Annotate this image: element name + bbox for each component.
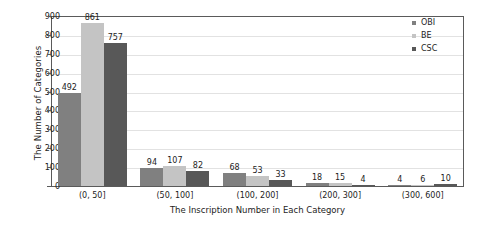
legend-item: BE [412,31,437,41]
bar [329,183,352,186]
x-tick-label: (200, 300] [300,191,380,200]
x-tick-label: (300, 600] [383,191,463,200]
legend-item: OBI [412,18,437,28]
legend-swatch [412,47,416,51]
y-tick-mark [47,186,51,187]
bars-layer: 4928617579410782685333181544610 [51,16,464,186]
bar-value-label: 492 [58,83,81,92]
bar [58,93,81,186]
legend-swatch [412,34,416,38]
bar [306,183,329,186]
bar-value-label: 4 [352,175,375,184]
x-tick-label: (0, 50] [52,191,132,200]
bar-value-label: 10 [434,174,457,183]
bar-value-label: 15 [329,173,352,182]
bar [104,43,127,186]
bar [434,184,457,186]
bar [411,185,434,186]
legend-swatch [412,21,416,25]
x-tick-label: (100, 200] [218,191,298,200]
bar [388,185,411,186]
bar [186,171,209,186]
bar [163,166,186,186]
x-axis-title: The Inscription Number in Each Category [51,205,464,215]
x-tick-label: (50, 100] [135,191,215,200]
bar [81,23,104,186]
bar-value-label: 107 [163,156,186,165]
legend-item: CSC [412,44,437,54]
bar [352,185,375,186]
bar [269,180,292,186]
bar-value-label: 33 [269,170,292,179]
bar-value-label: 4 [388,175,411,184]
bar-value-label: 82 [186,161,209,170]
bar [246,176,269,186]
legend-label: OBI [421,19,435,27]
bar [223,173,246,186]
bar-value-label: 94 [140,158,163,167]
legend: OBIBECSC [412,18,437,54]
legend-label: CSC [421,45,437,53]
legend-label: BE [421,32,432,40]
bar [140,168,163,186]
bar-value-label: 6 [411,175,434,184]
bar-value-label: 68 [223,163,246,172]
bar-value-label: 53 [246,166,269,175]
bar-value-label: 861 [81,13,104,22]
bar-value-label: 18 [306,173,329,182]
bar-chart: The Number of Categories 010020030040050… [0,0,478,225]
bar-value-label: 757 [104,33,127,42]
